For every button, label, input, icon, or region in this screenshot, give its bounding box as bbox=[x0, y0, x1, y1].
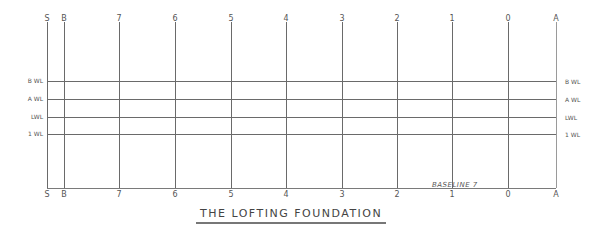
station-label-top: 6 bbox=[172, 14, 177, 23]
station-line-6 bbox=[175, 22, 176, 188]
station-label-bottom: B bbox=[61, 190, 67, 199]
waterline-label-left: B WL bbox=[28, 77, 43, 84]
waterline-label-left: A WL bbox=[28, 95, 43, 102]
station-line-s bbox=[47, 22, 48, 188]
station-line-a bbox=[556, 22, 557, 188]
waterline-label-right: LWL bbox=[565, 114, 577, 121]
station-label-top: 1 bbox=[449, 14, 454, 23]
station-label-bottom: 6 bbox=[172, 190, 177, 199]
station-label-top: 5 bbox=[228, 14, 233, 23]
station-line-7 bbox=[119, 22, 120, 188]
station-line-5 bbox=[231, 22, 232, 188]
waterline-labels-left: B WL A WL LWL 1 WL bbox=[0, 0, 43, 235]
station-label-bottom: A bbox=[553, 190, 558, 199]
waterline-label-left: 1 WL bbox=[28, 130, 43, 137]
station-label-top: S bbox=[44, 14, 49, 23]
station-line-4 bbox=[286, 22, 287, 188]
station-label-top: 0 bbox=[505, 14, 510, 23]
station-label-bottom: 7 bbox=[116, 190, 121, 199]
waterline-a bbox=[47, 99, 556, 100]
station-label-bottom: 4 bbox=[283, 190, 288, 199]
station-label-bottom: 1 bbox=[449, 190, 454, 199]
waterline-label-left: LWL bbox=[31, 113, 43, 120]
title-underline bbox=[196, 222, 386, 224]
station-label-top: 4 bbox=[283, 14, 288, 23]
station-label-top: 7 bbox=[116, 14, 121, 23]
station-label-top: 2 bbox=[394, 14, 399, 23]
station-label-top: B bbox=[61, 14, 67, 23]
station-line-1 bbox=[452, 22, 453, 188]
station-line-0 bbox=[508, 22, 509, 188]
station-label-top: A bbox=[553, 14, 558, 23]
waterline-lwl bbox=[47, 117, 556, 118]
baseline-label: BASELINE 7 bbox=[432, 181, 478, 189]
diagram-title: THE LOFTING FOUNDATION bbox=[200, 207, 382, 220]
station-label-bottom: 2 bbox=[394, 190, 399, 199]
station-line-2 bbox=[397, 22, 398, 188]
station-label-bottom: 5 bbox=[228, 190, 233, 199]
station-label-bottom: 0 bbox=[505, 190, 510, 199]
station-line-b bbox=[64, 22, 65, 188]
station-line-3 bbox=[342, 22, 343, 188]
station-label-bottom: S bbox=[44, 190, 49, 199]
waterline-1 bbox=[47, 134, 556, 135]
waterline-label-right: A WL bbox=[565, 96, 580, 103]
waterline-b bbox=[47, 81, 556, 82]
station-label-bottom: 3 bbox=[339, 190, 344, 199]
station-label-top: 3 bbox=[339, 14, 344, 23]
waterline-label-right: B WL bbox=[565, 78, 580, 85]
baseline bbox=[47, 188, 556, 189]
waterline-label-right: 1 WL bbox=[565, 131, 580, 138]
